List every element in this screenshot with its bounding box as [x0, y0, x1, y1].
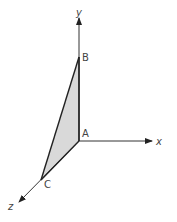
x-axis-label: x	[155, 136, 162, 147]
point-b-label: B	[82, 52, 89, 63]
3d-axes-diagram: y x z B A C	[0, 0, 177, 222]
y-axis-label: y	[75, 7, 83, 18]
point-a-label: A	[82, 128, 89, 139]
z-axis-label: z	[7, 201, 14, 212]
point-c-label: C	[44, 179, 51, 190]
